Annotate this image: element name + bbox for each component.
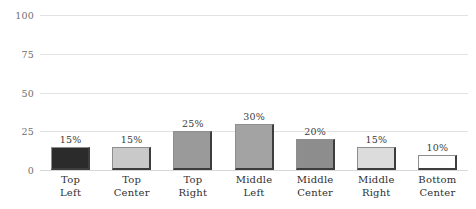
bar-value-label: 15% (121, 134, 143, 145)
bar-group: 20% (296, 15, 335, 170)
x-category-label-line: Middle (346, 174, 407, 187)
x-category-label-line: Center (407, 187, 468, 200)
plot-area: 15%15%25%30%20%15%10% (40, 15, 468, 170)
bar[interactable] (296, 139, 335, 170)
bar-value-label: 15% (365, 134, 387, 145)
bar[interactable] (173, 131, 212, 170)
bar[interactable] (112, 147, 151, 170)
bar[interactable] (235, 124, 274, 171)
x-category-label: TopLeft (40, 174, 101, 199)
bar-group: 30% (235, 15, 274, 170)
bar-value-label: 25% (182, 118, 204, 129)
x-category-label: BottomCenter (407, 174, 468, 199)
bar[interactable] (357, 147, 396, 170)
x-category-label-line: Right (162, 187, 223, 200)
x-category-label-line: Top (40, 174, 101, 187)
x-category-label-line: Top (101, 174, 162, 187)
bar-chart: 0255075100 15%15%25%30%20%15%10% TopLeft… (0, 0, 476, 209)
bar-group: 15% (51, 15, 90, 170)
x-category-label-line: Center (101, 187, 162, 200)
x-category-label-line: Center (285, 187, 346, 200)
bar[interactable] (51, 147, 90, 170)
x-category-label-line: Right (346, 187, 407, 200)
bar-value-label: 20% (304, 126, 326, 137)
x-category-label: MiddleLeft (223, 174, 284, 199)
y-tick-label-50: 50 (0, 87, 34, 98)
y-tick-label-25: 25 (0, 126, 34, 137)
x-category-label-line: Left (223, 187, 284, 200)
x-category-label-line: Top (162, 174, 223, 187)
gridline-0 (40, 170, 468, 171)
x-category-label-line: Left (40, 187, 101, 200)
bar-group: 15% (112, 15, 151, 170)
x-category-label: MiddleCenter (285, 174, 346, 199)
bar-value-label: 10% (427, 142, 449, 153)
bar[interactable] (418, 155, 457, 171)
x-category-label: MiddleRight (346, 174, 407, 199)
x-category-label: TopRight (162, 174, 223, 199)
x-category-label-line: Middle (223, 174, 284, 187)
y-tick-label-100: 100 (0, 10, 34, 21)
x-category-label: TopCenter (101, 174, 162, 199)
bar-group: 15% (357, 15, 396, 170)
x-category-label-line: Middle (285, 174, 346, 187)
bar-group: 25% (173, 15, 212, 170)
x-category-label-line: Bottom (407, 174, 468, 187)
bar-value-label: 30% (243, 111, 265, 122)
bar-value-label: 15% (60, 134, 82, 145)
y-tick-label-75: 75 (0, 48, 34, 59)
bar-group: 10% (418, 15, 457, 170)
y-tick-label-0: 0 (0, 165, 34, 176)
